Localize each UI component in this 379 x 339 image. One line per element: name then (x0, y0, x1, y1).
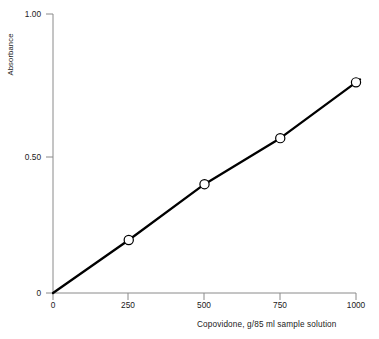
data-point-marker (200, 180, 209, 189)
x-tick-label-1000: 1000 (336, 300, 376, 310)
x-axis-title: Copovidone, g/85 ml sample solution (197, 320, 337, 329)
data-point-marker (351, 78, 360, 87)
x-tick-label-500: 500 (184, 300, 224, 310)
data-point-marker (276, 134, 285, 143)
x-tick-label-0: 0 (33, 300, 73, 310)
y-axis-title: Absorbance (6, 22, 15, 88)
plot-area (0, 0, 379, 339)
x-tick-marks (53, 293, 356, 300)
calibration-curve-chart: 1.00 0.50 0 0 250 500 750 1000 Absorbanc… (0, 0, 379, 339)
y-tick-label-0: 0 (13, 288, 41, 298)
data-point-marker (124, 235, 133, 244)
x-tick-label-750: 750 (260, 300, 300, 310)
x-tick-label-250: 250 (108, 300, 148, 310)
y-tick-marks (46, 14, 53, 293)
y-tick-label-050: 0.50 (13, 152, 41, 162)
y-tick-label-100: 1.00 (13, 9, 41, 19)
